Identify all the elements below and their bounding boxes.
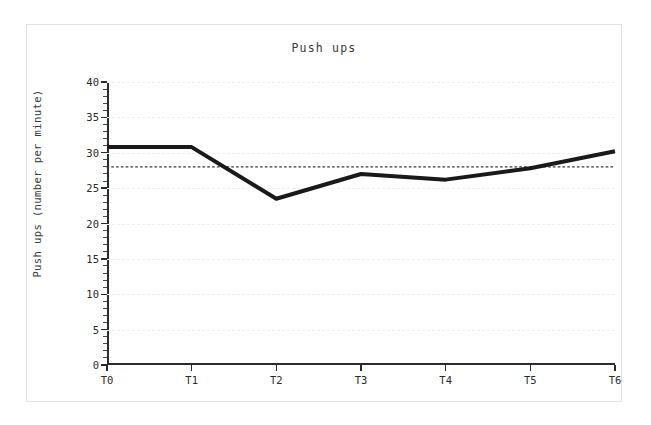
x-tick bbox=[191, 365, 192, 371]
y-tick-label: 5 bbox=[93, 324, 99, 336]
x-tick-label: T3 bbox=[355, 374, 368, 386]
y-tick-label: 30 bbox=[86, 147, 99, 159]
chart-figure: Push ups Push ups (number per minute) 05… bbox=[26, 24, 622, 402]
x-tick bbox=[614, 365, 615, 371]
x-tick-label: T4 bbox=[439, 374, 452, 386]
y-tick-label: 35 bbox=[86, 111, 99, 123]
y-tick-label: 20 bbox=[86, 218, 99, 230]
x-tick bbox=[106, 365, 107, 371]
plot-area: 0510152025303540 T0T1T2T3T4T5T6 bbox=[107, 82, 615, 365]
y-tick-label: 15 bbox=[86, 253, 99, 265]
x-tick-label: T0 bbox=[101, 374, 114, 386]
x-tick-label: T6 bbox=[609, 374, 622, 386]
x-tick bbox=[360, 365, 361, 371]
series-line-0 bbox=[107, 147, 615, 199]
y-tick-label: 25 bbox=[86, 182, 99, 194]
y-tick-label: 40 bbox=[86, 76, 99, 88]
y-tick-label: 0 bbox=[93, 359, 99, 371]
x-tick bbox=[530, 365, 531, 371]
y-tick-label: 10 bbox=[86, 288, 99, 300]
x-tick bbox=[445, 365, 446, 371]
y-axis-label: Push ups (number per minute) bbox=[31, 42, 47, 325]
chart-title: Push ups bbox=[27, 41, 621, 55]
data-series-layer bbox=[107, 82, 615, 365]
x-tick-label: T5 bbox=[524, 374, 537, 386]
x-tick-label: T2 bbox=[270, 374, 283, 386]
x-tick-label: T1 bbox=[185, 374, 198, 386]
x-tick bbox=[276, 365, 277, 371]
